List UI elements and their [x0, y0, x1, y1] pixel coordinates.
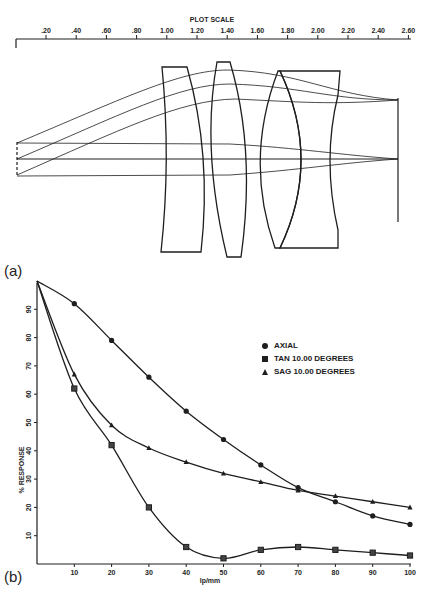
data-point	[296, 544, 301, 549]
data-point	[184, 544, 189, 549]
legend-item-axial: AXIAL	[262, 339, 355, 352]
data-point	[109, 338, 114, 343]
data-point	[146, 375, 151, 380]
circle-marker-icon	[262, 343, 268, 349]
data-point	[72, 372, 77, 377]
x-tick-label: 20	[108, 569, 116, 576]
chart-legend: AXIAL TAN 10.00 DEGREES SAG 10.00 DEGREE…	[262, 339, 355, 378]
data-point	[72, 386, 77, 391]
data-point	[407, 553, 412, 558]
mtf-chart: 102030405060708090 % RESPONSE 1020304050…	[0, 0, 431, 600]
x-axis: 102030405060708090100 lp/mm	[37, 564, 416, 585]
data-point	[407, 522, 412, 527]
y-tick-label: 20	[25, 503, 32, 511]
x-tick-label: 50	[220, 569, 228, 576]
x-tick-label: 80	[332, 569, 340, 576]
x-tick-label: 30	[145, 569, 153, 576]
legend-item-tan: TAN 10.00 DEGREES	[262, 352, 355, 365]
y-tick-label: 50	[25, 419, 32, 427]
data-point	[221, 437, 226, 442]
y-tick-label: 10	[25, 532, 32, 540]
x-tick-label: 90	[369, 569, 377, 576]
y-axis: 102030405060708090 % RESPONSE	[18, 283, 37, 564]
legend-item-sag: SAG 10.00 DEGREES	[262, 365, 355, 378]
triangle-marker-icon	[262, 369, 268, 375]
data-point	[221, 556, 226, 561]
data-point	[146, 505, 151, 510]
series-group	[37, 281, 413, 561]
square-marker-icon	[262, 356, 268, 362]
y-tick-label: 30	[25, 475, 32, 483]
x-tick-label: 10	[70, 569, 78, 576]
y-tick-label: 70	[25, 362, 32, 370]
data-point	[333, 499, 338, 504]
x-tick-label: 100	[404, 569, 416, 576]
data-point	[184, 409, 189, 414]
data-point	[370, 550, 375, 555]
x-tick-label: 40	[182, 569, 190, 576]
x-tick-label: 60	[257, 569, 265, 576]
y-axis-label: % RESPONSE	[18, 446, 25, 493]
y-tick-label: 90	[25, 305, 32, 313]
y-tick-label: 40	[25, 447, 32, 455]
series-line	[37, 281, 410, 558]
data-point	[258, 547, 263, 552]
data-point	[109, 443, 114, 448]
legend-label: AXIAL	[274, 339, 298, 352]
data-point	[370, 513, 375, 518]
data-point	[72, 301, 77, 306]
legend-label: SAG 10.00 DEGREES	[274, 365, 355, 378]
series-line	[37, 281, 410, 524]
y-tick-label: 80	[25, 334, 32, 342]
x-axis-label: lp/mm	[200, 577, 221, 585]
data-point	[258, 462, 263, 467]
panel-label-b: (b)	[4, 568, 22, 585]
data-point	[333, 547, 338, 552]
legend-label: TAN 10.00 DEGREES	[274, 352, 353, 365]
x-tick-label: 70	[294, 569, 302, 576]
y-tick-label: 60	[25, 390, 32, 398]
